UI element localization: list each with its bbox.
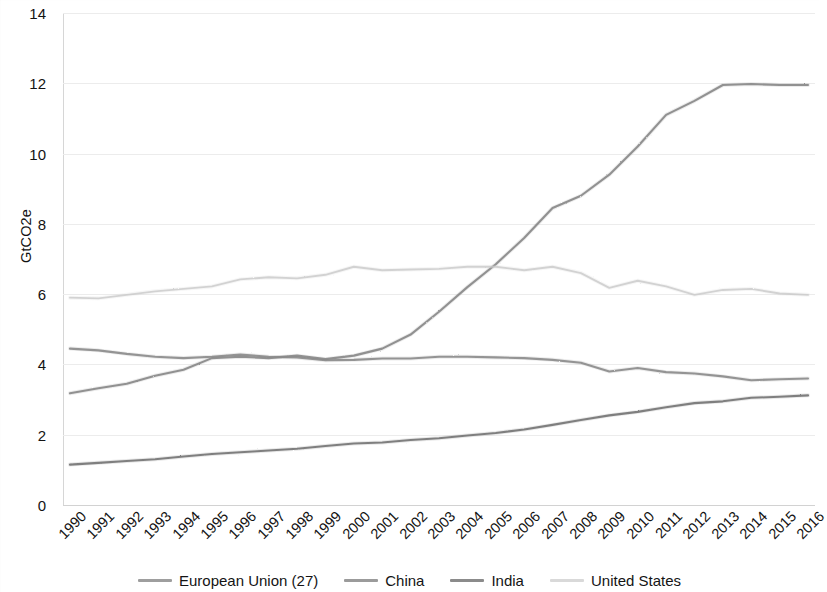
y-axis-tick-6: 6: [0, 286, 46, 303]
legend-swatch-icon: [138, 579, 172, 582]
series-united-states: [70, 267, 808, 299]
legend-label: India: [491, 572, 524, 589]
plot-area: [63, 13, 815, 505]
series-india: [70, 395, 808, 464]
legend-swatch-icon: [344, 579, 378, 582]
legend-item-india[interactable]: India: [450, 572, 524, 589]
y-axis-tick-2: 2: [0, 426, 46, 443]
legend-label: China: [385, 572, 424, 589]
chart-legend: European Union (27)ChinaIndiaUnited Stat…: [0, 568, 819, 592]
y-axis-tick-labels: 02468101214: [0, 0, 56, 520]
y-axis-tick-12: 12: [0, 75, 46, 92]
legend-item-china[interactable]: China: [344, 572, 424, 589]
series-lines: [63, 13, 815, 505]
y-axis-tick-14: 14: [0, 5, 46, 22]
y-axis-tick-10: 10: [0, 145, 46, 162]
legend-label: United States: [591, 572, 681, 589]
y-axis-tick-4: 4: [0, 356, 46, 373]
legend-label: European Union (27): [179, 572, 318, 589]
series-china: [70, 84, 808, 393]
legend-swatch-icon: [550, 579, 584, 582]
legend-item-united-states[interactable]: United States: [550, 572, 681, 589]
y-axis-tick-0: 0: [0, 497, 46, 514]
legend-swatch-icon: [450, 579, 484, 582]
series-european-union-27: [70, 349, 808, 381]
x-axis-line: [63, 505, 815, 506]
x-axis-tick-labels: 1990199119921993199419951996199719981999…: [63, 508, 815, 562]
legend-item-european-union-27[interactable]: European Union (27): [138, 572, 318, 589]
y-axis-tick-8: 8: [0, 215, 46, 232]
